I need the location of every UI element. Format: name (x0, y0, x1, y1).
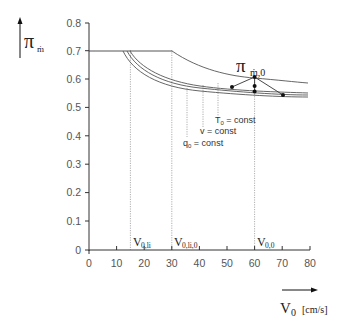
svg-text:50: 50 (221, 257, 233, 269)
svg-text:0.5: 0.5 (66, 101, 81, 113)
svg-text:V: V (280, 300, 291, 316)
svg-text:0,li: 0,li (141, 241, 151, 250)
svg-text:[cm/s]: [cm/s] (302, 304, 328, 315)
svg-text:40: 40 (194, 257, 206, 269)
x-axis-title: V 0 [cm/s] (280, 288, 328, 319)
arrow-right-icon (311, 288, 318, 293)
y-tick-labels: 0.8 0.7 0.6 0.5 0.4 0.3 0.2 0.1 0 (66, 17, 81, 256)
svg-text:0.4: 0.4 (66, 130, 81, 142)
curves (123, 51, 308, 97)
reference-labels: V 0,li V 0,li,0 V 0,0 (133, 235, 275, 250)
svg-text:70: 70 (276, 257, 288, 269)
svg-text:80: 80 (304, 257, 316, 269)
svg-text:v = const: v = const (200, 126, 237, 136)
svg-text:0.6: 0.6 (66, 73, 81, 85)
arrow-up-icon (18, 17, 23, 24)
svg-text:T0 = const: T0 = const (215, 115, 256, 126)
curve-annotations: T0 = const v = const q0 = const (183, 115, 256, 149)
svg-text:10: 10 (111, 257, 123, 269)
svg-text:ṁ,0: ṁ,0 (250, 67, 265, 78)
chart: 0.8 0.7 0.6 0.5 0.4 0.3 0.2 0.1 0 0 10 2… (0, 0, 350, 326)
svg-text:20: 20 (138, 257, 150, 269)
svg-text:0: 0 (75, 244, 81, 256)
svg-text:ṁ: ṁ (37, 44, 44, 54)
svg-text:0,0: 0,0 (265, 241, 275, 250)
svg-text:0.7: 0.7 (66, 45, 81, 57)
svg-text:60: 60 (249, 257, 261, 269)
y-axis-title: π ṁ (18, 17, 45, 58)
svg-text:30: 30 (166, 257, 178, 269)
svg-text:π: π (236, 55, 246, 76)
svg-text:0: 0 (291, 307, 296, 318)
reference-lines (130, 50, 254, 250)
chart-svg: 0.8 0.7 0.6 0.5 0.4 0.3 0.2 0.1 0 0 10 2… (0, 0, 350, 326)
x-tick-labels: 0 10 20 30 40 50 60 70 80 (86, 257, 316, 269)
svg-text:q0 = const: q0 = const (183, 138, 224, 149)
svg-text:0: 0 (86, 257, 92, 269)
svg-text:0.3: 0.3 (66, 158, 81, 170)
svg-text:0.8: 0.8 (66, 17, 81, 29)
svg-text:0,li,0: 0,li,0 (182, 241, 198, 250)
svg-text:0.1: 0.1 (66, 215, 81, 227)
point-label: π ṁ,0 (236, 55, 265, 78)
svg-text:0.2: 0.2 (66, 186, 81, 198)
svg-text:π: π (24, 30, 34, 52)
